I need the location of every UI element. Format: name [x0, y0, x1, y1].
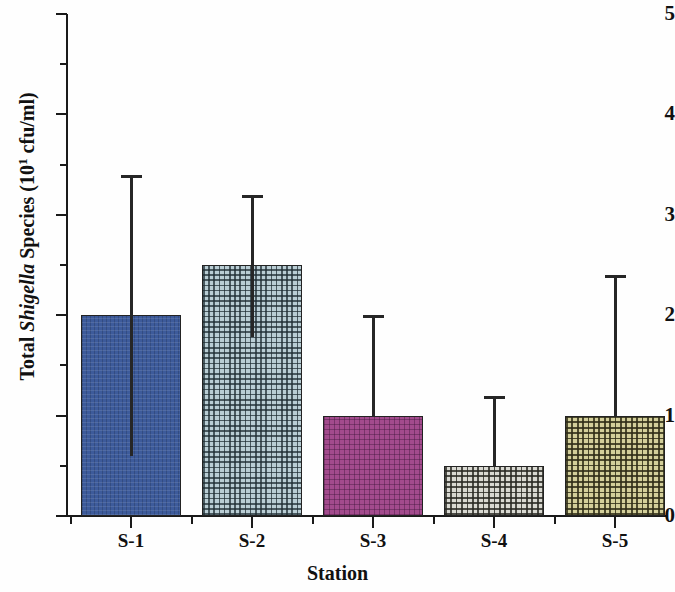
error-bar-stem-S-2 [251, 195, 254, 338]
y-tick-major-1 [56, 415, 67, 417]
y-axis-title-italic-taxon: Shigella [16, 264, 38, 332]
error-bar-stem-S-4 [493, 396, 496, 466]
error-bar-cap-upper-S-2 [242, 195, 263, 198]
y-tick-major-0 [56, 515, 67, 517]
x-tick-label-S-2: S-2 [212, 530, 292, 552]
y-axis-title-suffix: cfu/ml) [16, 92, 38, 158]
x-tick-minor [70, 517, 72, 524]
error-bar-cap-upper-S-1 [121, 175, 142, 178]
y-axis-title-prefix: Total [16, 332, 38, 381]
x-tick-minor [191, 517, 193, 524]
y-tick-major-2 [56, 314, 67, 316]
x-tick-major-S-5 [614, 517, 616, 528]
y-tick-label-5: 5 [627, 1, 675, 26]
x-tick-minor [433, 517, 435, 524]
x-tick-major-S-4 [493, 517, 495, 528]
x-tick-label-S-1: S-1 [91, 530, 171, 552]
y-tick-major-3 [56, 214, 67, 216]
x-tick-label-S-5: S-5 [575, 530, 655, 552]
x-tick-minor [312, 517, 314, 524]
y-tick-minor [60, 164, 67, 166]
y-axis-title: Total Shigella Species (101 cfu/ml) [15, 1, 40, 471]
y-tick-major-4 [56, 113, 67, 115]
error-bar-cap-upper-S-3 [363, 315, 384, 318]
error-bar-stem-S-1 [130, 175, 133, 456]
y-tick-minor [60, 465, 67, 467]
x-tick-minor [554, 517, 556, 524]
bar-S-4 [444, 466, 544, 516]
y-axis-title-exponent: 1 [15, 158, 30, 165]
bar-S-5 [565, 416, 665, 516]
y-tick-label-3: 3 [627, 202, 675, 227]
x-tick-label-S-3: S-3 [333, 530, 413, 552]
x-tick-major-S-3 [372, 517, 374, 528]
x-tick-label-S-4: S-4 [454, 530, 534, 552]
x-tick-major-S-2 [251, 517, 253, 528]
x-axis-title: Station [0, 562, 675, 585]
error-bar-cap-upper-S-4 [484, 396, 505, 399]
y-axis-title-middle: Species (10 [16, 165, 38, 264]
y-tick-label-2: 2 [627, 302, 675, 327]
y-tick-minor [60, 364, 67, 366]
error-bar-stem-S-3 [372, 315, 375, 415]
y-tick-major-5 [56, 13, 67, 15]
y-tick-minor [60, 63, 67, 65]
x-tick-major-S-1 [130, 517, 132, 528]
error-bar-cap-upper-S-5 [605, 275, 626, 278]
bar-chart-figure: 012345 S-1S-2S-3S-4S-5 Total Shigella Sp… [0, 0, 675, 592]
y-tick-label-4: 4 [627, 101, 675, 126]
y-tick-minor [60, 264, 67, 266]
error-bar-stem-S-5 [614, 275, 617, 416]
bar-S-3 [323, 416, 423, 516]
